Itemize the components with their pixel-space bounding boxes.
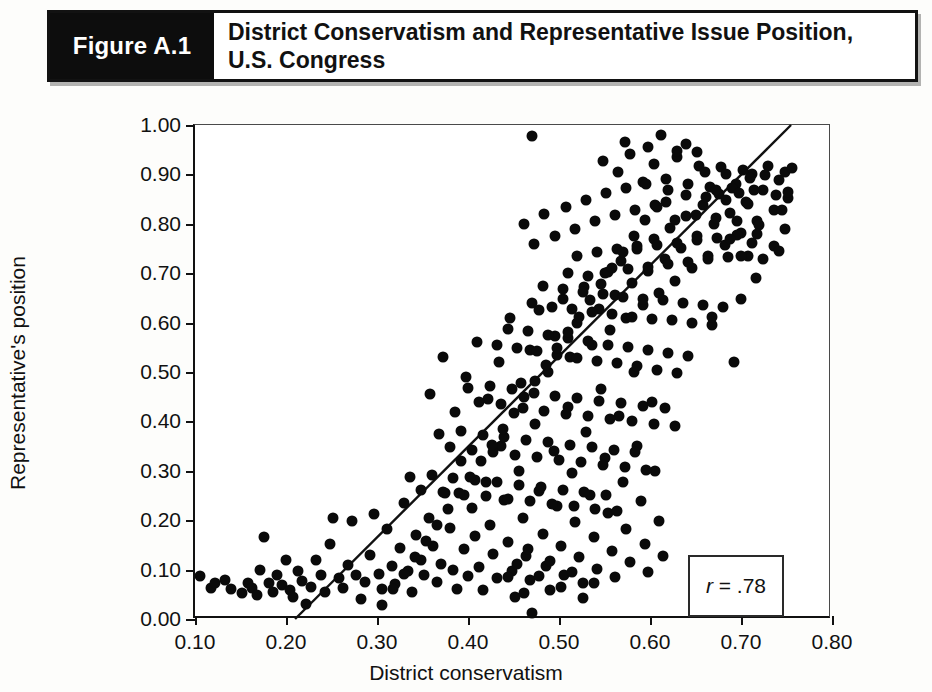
- scatter-point: [639, 214, 650, 225]
- scatter-point: [463, 570, 474, 581]
- scatter-point: [657, 550, 668, 561]
- scatter-point: [690, 209, 701, 220]
- scatter-point: [570, 223, 581, 234]
- figure-caption-text: District Conservatism and Representative…: [228, 13, 911, 79]
- scatter-point: [643, 262, 654, 273]
- scatter-point: [328, 512, 339, 523]
- scatter-point: [624, 557, 635, 568]
- y-tick-label: 0.80: [140, 212, 181, 236]
- scatter-point: [657, 295, 668, 306]
- scatter-point: [419, 569, 430, 580]
- x-tick-label: 0.70: [721, 630, 762, 654]
- plot-area: 0.000.100.200.300.400.500.600.700.800.90…: [193, 124, 830, 618]
- scatter-point: [623, 342, 634, 353]
- y-tick-label: 0.30: [140, 459, 181, 483]
- y-tick-label: 0.70: [140, 261, 181, 285]
- x-tick-label: 0.10: [175, 630, 216, 654]
- scatter-point: [757, 254, 768, 265]
- scatter-point: [692, 147, 703, 158]
- scatter-point: [461, 371, 472, 382]
- scatter-point: [508, 407, 519, 418]
- scatter-point: [626, 416, 637, 427]
- scatter-point: [728, 357, 739, 368]
- scatter-point: [630, 447, 641, 458]
- scatter-point: [637, 293, 648, 304]
- scatter-point: [320, 586, 331, 597]
- scatter-point: [595, 279, 606, 290]
- scatter-point: [513, 479, 524, 490]
- x-tick-label: 0.80: [812, 630, 853, 654]
- scatter-point: [526, 130, 537, 141]
- scatter-point: [683, 351, 694, 362]
- scatter-point: [606, 545, 617, 556]
- scatter-point: [586, 442, 597, 453]
- y-tick: [186, 372, 195, 374]
- scatter-point: [732, 216, 743, 227]
- scatter-point: [699, 166, 710, 177]
- scatter-point: [646, 313, 657, 324]
- scatter-point: [369, 509, 380, 520]
- scatter-point: [495, 399, 506, 410]
- scatter-point: [288, 591, 299, 602]
- scatter-point: [672, 237, 683, 248]
- correlation-symbol: r: [706, 574, 713, 597]
- y-tick: [186, 570, 195, 572]
- scatter-point: [466, 502, 477, 513]
- scatter-point: [360, 576, 371, 587]
- scatter-point: [617, 476, 628, 487]
- scatter-point: [770, 190, 781, 201]
- scatter-point: [421, 535, 432, 546]
- scatter-point: [588, 532, 599, 543]
- scatter-point: [610, 572, 621, 583]
- scatter-point: [510, 449, 521, 460]
- scatter-point: [523, 326, 534, 337]
- scatter-point: [561, 201, 572, 212]
- scatter-point: [519, 391, 530, 402]
- scatter-point: [517, 512, 528, 523]
- scatter-point: [388, 584, 399, 595]
- scatter-point: [535, 481, 546, 492]
- scatter-point: [306, 582, 317, 593]
- scatter-point: [710, 212, 721, 223]
- scatter-point: [557, 484, 568, 495]
- scatter-point: [333, 572, 344, 583]
- scatter-point: [472, 337, 483, 348]
- scatter-point: [512, 558, 523, 569]
- scatter-point: [432, 520, 443, 531]
- scatter-point: [612, 358, 623, 369]
- y-tick: [186, 421, 195, 423]
- scatter-point: [779, 223, 790, 234]
- scatter-point: [355, 594, 366, 605]
- scatter-point: [448, 564, 459, 575]
- scatter-point: [521, 435, 532, 446]
- scatter-point: [566, 468, 577, 479]
- scatter-point: [473, 562, 484, 573]
- scatter-point: [399, 568, 410, 579]
- scatter-point: [654, 516, 665, 527]
- scatter-point: [584, 295, 595, 306]
- scatter-point: [492, 339, 503, 350]
- scatter-point: [583, 336, 594, 347]
- scatter-point: [543, 329, 554, 340]
- correlation-value: = .78: [713, 574, 766, 597]
- scatter-point: [597, 459, 608, 470]
- scatter-point: [663, 185, 674, 196]
- scatter-point: [736, 293, 747, 304]
- scatter-point: [492, 573, 503, 584]
- scatter-point: [712, 232, 723, 243]
- scatter-point: [579, 486, 590, 497]
- scatter-point: [433, 428, 444, 439]
- scatter-point: [670, 275, 681, 286]
- y-tick: [186, 471, 195, 473]
- scatter-point: [530, 418, 541, 429]
- scatter-point: [550, 390, 561, 401]
- scatter-point: [663, 348, 674, 359]
- scatter-point: [484, 380, 495, 391]
- scatter-point: [677, 297, 688, 308]
- scatter-point: [506, 384, 517, 395]
- scatter-point: [464, 471, 475, 482]
- x-tick: [832, 616, 834, 625]
- scatter-point: [666, 315, 677, 326]
- y-axis-label: Representative's position: [6, 256, 30, 490]
- scatter-point: [453, 488, 464, 499]
